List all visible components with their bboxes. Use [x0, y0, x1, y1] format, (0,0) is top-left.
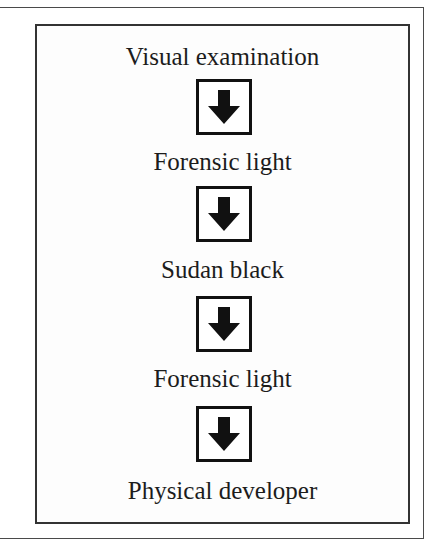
flowchart-box: Visual examination Forensic light Sudan … — [35, 24, 410, 524]
step-visual-examination: Visual examination — [37, 42, 408, 72]
arrow-connector-4 — [196, 406, 252, 462]
step-sudan-black: Sudan black — [37, 255, 408, 285]
down-arrow-icon — [199, 82, 249, 132]
down-arrow-icon — [199, 409, 249, 459]
step-forensic-light-1: Forensic light — [37, 147, 408, 177]
down-arrow-icon — [199, 299, 249, 349]
arrow-connector-1 — [196, 79, 252, 135]
down-arrow-icon — [199, 189, 249, 239]
arrow-connector-2 — [196, 186, 252, 242]
step-forensic-light-2: Forensic light — [37, 364, 408, 394]
step-physical-developer: Physical developer — [37, 476, 408, 506]
arrow-connector-3 — [196, 296, 252, 352]
